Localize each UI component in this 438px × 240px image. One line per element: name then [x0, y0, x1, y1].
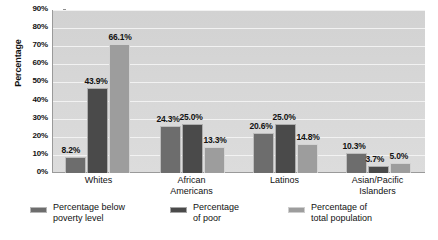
legend-label-line: Percentage — [193, 202, 239, 213]
y-axis-tick-40: 40% — [14, 96, 48, 104]
x-axis-label-latinos: Latinos — [238, 175, 331, 186]
bar-value-label: 8.2% — [62, 146, 81, 155]
legend-swatch — [170, 207, 187, 213]
bar-group — [253, 10, 318, 173]
y-axis-tick-60: 60% — [14, 59, 48, 67]
y-axis-tick-50: 50% — [14, 77, 48, 85]
bar[interactable] — [297, 144, 318, 173]
legend-swatch — [288, 207, 305, 213]
y-axis-tick-70: 70% — [14, 41, 48, 49]
bar-value-label: 24.3% — [157, 115, 180, 124]
bar[interactable] — [275, 124, 296, 173]
x-axis-category-labels: WhitesAfricanAmericansLatinosAsian/Pacif… — [52, 175, 424, 199]
bar-value-label: 5.0% — [390, 152, 409, 161]
y-axis-tick-20: 20% — [14, 132, 48, 140]
legend-label: Percentageof poor — [193, 202, 239, 224]
bar[interactable] — [368, 166, 389, 173]
bar-value-label: 14.8% — [297, 133, 320, 142]
bar-value-label: 13.3% — [204, 136, 227, 145]
y-axis-tick-0: 0% — [14, 168, 48, 176]
y-axis-tick-80: 80% — [14, 23, 48, 31]
bar-value-label: 25.0% — [273, 113, 296, 122]
bar[interactable] — [182, 124, 203, 173]
chart-legend: Percentage belowpoverty levelPercentageo… — [0, 202, 438, 240]
bar[interactable] — [87, 88, 108, 173]
legend-label-line: of poor — [193, 213, 239, 224]
x-axis-label-whites: Whites — [52, 175, 145, 186]
bar[interactable] — [253, 133, 274, 173]
bar[interactable] — [204, 147, 225, 173]
legend-label: Percentage belowpoverty level — [53, 202, 125, 224]
bar-value-label: 66.1% — [109, 33, 132, 42]
bar[interactable] — [346, 153, 367, 173]
x-axis-label-line: Americans — [145, 186, 238, 197]
bar-value-label: 3.7% — [366, 155, 385, 164]
y-axis-tick-labels: 0%10%20%30%40%50%60%70%80%90% — [14, 9, 48, 173]
x-axis-label-line: Islanders — [331, 186, 424, 197]
legend-label-line: poverty level — [53, 213, 125, 224]
x-axis-label-asian-pacific-islanders: Asian/PacificIslanders — [331, 175, 424, 197]
legend-label-line: total population — [311, 213, 372, 224]
plot-area: 8.2%43.9%66.1%24.3%25.0%13.3%20.6%25.0%1… — [52, 10, 425, 173]
x-axis-label-line: Whites — [52, 175, 145, 186]
legend-label-line: Percentage below — [53, 202, 125, 213]
x-axis-label-line: Latinos — [238, 175, 331, 186]
y-axis-tick-10: 10% — [14, 150, 48, 158]
bar-value-label: 20.6% — [250, 122, 273, 131]
bar-value-label: 25.0% — [180, 113, 203, 122]
bar[interactable] — [65, 157, 86, 173]
legend-label: Percentage oftotal population — [311, 202, 372, 224]
bar-value-label: 10.3% — [343, 142, 366, 151]
bar[interactable] — [109, 44, 130, 173]
bar[interactable] — [390, 163, 411, 173]
x-axis-label-line: African — [145, 175, 238, 186]
bar-group — [160, 10, 225, 173]
chart-figure: Percentage 0%10%20%30%40%50%60%70%80%90%… — [0, 0, 438, 240]
legend-label-line: Percentage of — [311, 202, 372, 213]
y-axis-tick-90: 90% — [14, 5, 48, 13]
bar[interactable] — [160, 126, 181, 173]
bar-value-label: 43.9% — [85, 77, 108, 86]
legend-swatch — [30, 207, 47, 213]
y-axis-tick-30: 30% — [14, 114, 48, 122]
x-axis-label-african-americans: AfricanAmericans — [145, 175, 238, 197]
x-axis-label-line: Asian/Pacific — [331, 175, 424, 186]
